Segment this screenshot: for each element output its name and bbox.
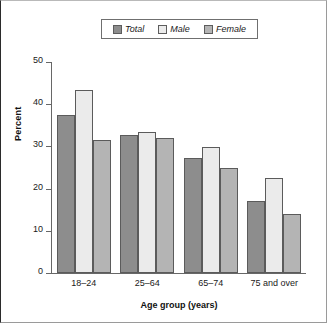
bar-group-2 — [120, 62, 174, 273]
y-tick-label-30: 30 — [33, 140, 43, 149]
legend-item-male: Male — [158, 25, 190, 34]
bar-male-2 — [138, 132, 156, 273]
legend-label-male: Male — [170, 25, 190, 34]
y-tick-label-50: 50 — [33, 56, 43, 65]
y-tick-0: 0 — [46, 273, 51, 274]
legend-item-total: Total — [113, 25, 144, 34]
chart-legend: Total Male Female — [101, 19, 258, 39]
bar-male-3 — [202, 147, 220, 273]
y-tick-30: 30 — [46, 146, 51, 147]
legend-label-female: Female — [216, 25, 246, 34]
y-tick-label-0: 0 — [38, 267, 43, 276]
y-tick-label-10: 10 — [33, 225, 43, 234]
y-tick-50: 50 — [46, 62, 51, 63]
bar-group-3 — [184, 62, 238, 273]
bar-total-2 — [120, 135, 138, 273]
legend-label-total: Total — [125, 25, 144, 34]
bar-male-4 — [265, 178, 283, 273]
bar-total-4 — [247, 201, 265, 273]
bar-total-1 — [57, 115, 75, 273]
legend-item-female: Female — [204, 25, 246, 34]
legend-swatch-female-icon — [204, 25, 213, 34]
legend-swatch-male-icon — [158, 25, 167, 34]
y-tick-40: 40 — [46, 104, 51, 105]
bar-male-1 — [75, 90, 93, 273]
x-tick-label-1: 18–24 — [52, 278, 116, 288]
legend-swatch-total-icon — [113, 25, 122, 34]
x-tick-label-3: 65–74 — [179, 278, 243, 288]
bar-total-3 — [184, 158, 202, 273]
plot-area: 01020304050 — [51, 62, 306, 274]
x-axis-line — [51, 273, 306, 274]
bar-female-3 — [220, 168, 238, 273]
x-axis-ticks: 18–2425–6465–7475 and over — [52, 278, 306, 288]
y-tick-10: 10 — [46, 231, 51, 232]
bar-group-1 — [57, 62, 111, 273]
y-tick-20: 20 — [46, 189, 51, 190]
bar-group-4 — [247, 62, 301, 273]
x-tick-label-4: 75 and over — [243, 278, 307, 288]
bar-female-1 — [93, 140, 111, 273]
y-tick-label-20: 20 — [33, 183, 43, 192]
y-axis-title: Percent — [13, 107, 23, 141]
y-tick-label-40: 40 — [33, 98, 43, 107]
x-axis-title: Age group (years) — [52, 300, 306, 310]
x-tick-label-2: 25–64 — [116, 278, 180, 288]
chart-figure: Total Male Female Percent 01020304050 18… — [0, 0, 327, 323]
bar-female-4 — [283, 214, 301, 273]
bar-groups — [52, 62, 306, 273]
bar-female-2 — [156, 138, 174, 273]
